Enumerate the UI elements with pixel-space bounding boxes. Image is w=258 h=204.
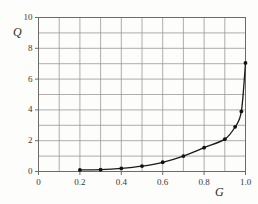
y-tick-label: 2 [9, 136, 33, 145]
data-point-marker [99, 168, 103, 172]
y-tick-label: 10 [9, 13, 33, 22]
data-point-marker [239, 110, 243, 114]
data-point-marker [233, 125, 237, 129]
x-tick-label: 0 [24, 178, 54, 187]
y-tick-label: 6 [9, 75, 33, 84]
x-tick-label: 0.4 [106, 178, 136, 187]
y-tick-label: 4 [9, 105, 33, 114]
x-tick-label: 0.8 [189, 178, 219, 187]
data-point-marker [223, 137, 227, 141]
x-axis-label: G [215, 186, 224, 198]
data-point-marker [140, 164, 144, 168]
x-tick-label: 1.0 [231, 178, 258, 187]
data-point-marker [202, 146, 206, 150]
data-point-marker [161, 160, 165, 164]
y-tick-label: 0 [9, 167, 33, 176]
data-point-marker [182, 154, 186, 158]
data-point-marker [119, 167, 123, 171]
y-tick-label: 8 [9, 44, 33, 53]
x-tick-label: 0.6 [148, 178, 178, 187]
y-axis-label: Q [13, 26, 22, 38]
plot-area [0, 0, 257, 204]
x-tick-label: 0.2 [65, 178, 95, 187]
data-point-marker [244, 61, 248, 65]
chart-figure-root: Q G 0246810 00.20.40.60.81.0 [0, 0, 257, 204]
data-point-marker [78, 168, 82, 172]
